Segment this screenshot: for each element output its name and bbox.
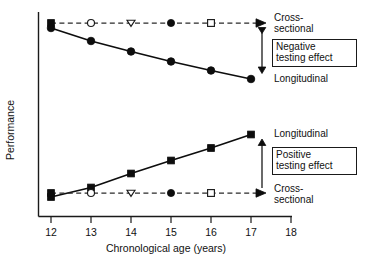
marker-filled-arrowhead	[256, 19, 266, 27]
x-axis-ticks	[51, 217, 291, 224]
marker-filled-square	[128, 170, 135, 177]
positive-testing-effect-arrow	[258, 139, 266, 188]
marker-filled-circle	[167, 19, 174, 26]
y-axis-title: Performance	[4, 70, 16, 190]
x-tick-label-13: 13	[85, 226, 97, 238]
label-top-cross-sectional: Cross- sectional	[274, 12, 313, 35]
negative-testing-effect-arrow	[258, 28, 266, 74]
y-axis-title-wrap: Performance	[2, 72, 18, 192]
marker-filled-circle	[127, 48, 135, 56]
marker-open-circle	[88, 20, 95, 27]
marker-filled-square	[168, 157, 175, 164]
marker-filled-circle	[207, 67, 215, 75]
marker-filled-square	[248, 131, 255, 138]
negative-testing-effect-box: Negative testing effect	[272, 39, 357, 67]
series-lower-longitudinal-line	[51, 135, 251, 198]
x-tick-label-16: 16	[205, 226, 217, 238]
chart-container: 12 13 14 15 16 17 18 Chronological age (…	[0, 0, 377, 263]
marker-filled-circle	[47, 24, 55, 32]
label-top-longitudinal: Longitudinal	[274, 73, 328, 84]
x-tick-label-18: 18	[285, 226, 297, 238]
marker-filled-circle	[87, 37, 95, 45]
x-tick-label-14: 14	[125, 226, 137, 238]
x-tick-label-15: 15	[165, 226, 177, 238]
arrowhead-up	[258, 139, 266, 146]
x-tick-label-17: 17	[245, 226, 257, 238]
marker-filled-circle	[247, 75, 255, 83]
arrowhead-down-bottom	[258, 67, 266, 74]
series-upper-longitudinal-line	[51, 28, 251, 79]
x-tick-label-12: 12	[45, 226, 57, 238]
marker-open-square	[208, 20, 215, 27]
label-bottom-longitudinal: Longitudinal	[274, 128, 328, 139]
marker-filled-square	[48, 190, 55, 197]
x-axis-title: Chronological age (years)	[106, 242, 226, 254]
marker-filled-circle	[167, 58, 175, 66]
marker-open-circle	[88, 190, 95, 197]
arrowhead-down-top	[258, 28, 266, 34]
label-bottom-cross-sectional: Cross- sectional	[274, 183, 313, 206]
marker-filled-square	[208, 145, 215, 152]
marker-filled-circle	[167, 189, 174, 196]
positive-testing-effect-box: Positive testing effect	[272, 147, 357, 175]
marker-filled-arrowhead	[256, 189, 266, 197]
marker-open-square	[208, 190, 215, 197]
